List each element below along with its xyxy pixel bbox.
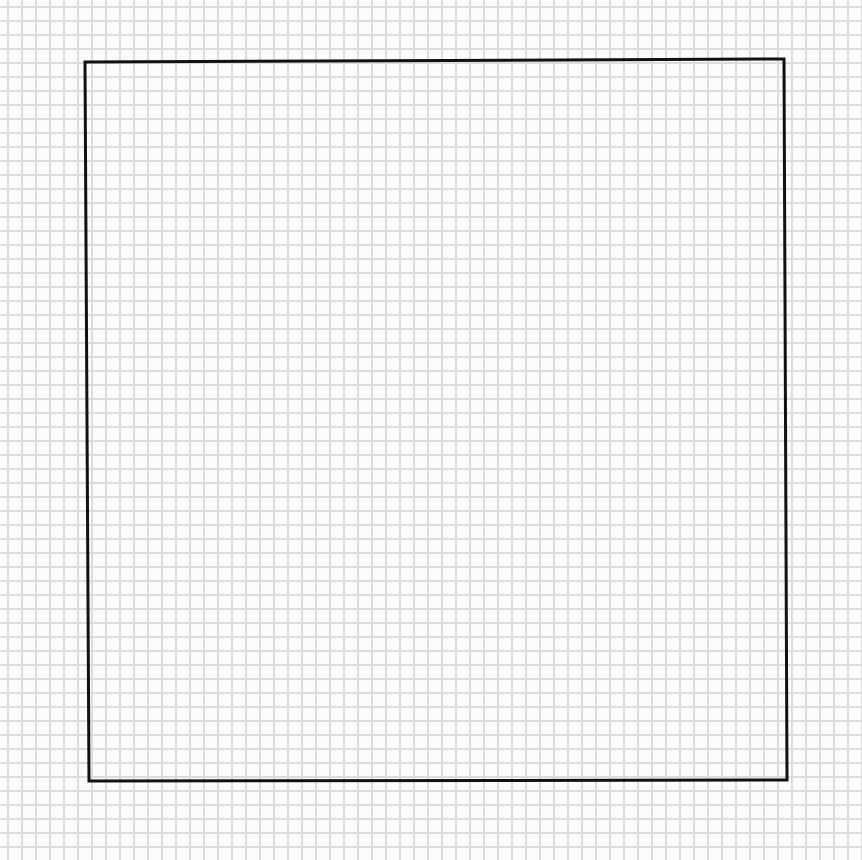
hand-drawn-square: [85, 59, 787, 781]
drawing-canvas: [0, 0, 862, 860]
